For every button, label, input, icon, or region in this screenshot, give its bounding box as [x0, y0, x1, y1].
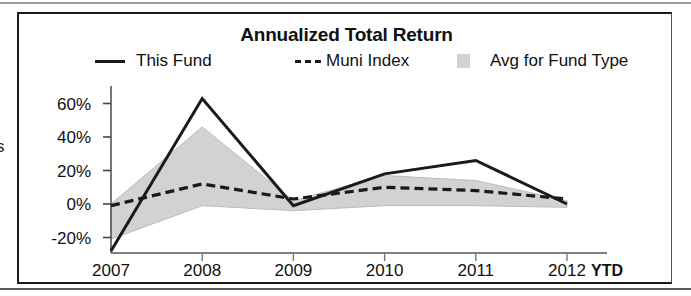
y-axis-caption-fragment: s: [0, 138, 10, 155]
x-axis-tick-label: 2012: [527, 262, 607, 279]
x-axis-tick-label: 2011: [436, 262, 516, 279]
chart-screenshot: s Annualized Total Return This Fund Muni…: [0, 0, 691, 296]
x-axis-tick-label: 2010: [345, 262, 425, 279]
x-axis-tick-label: 2008: [162, 262, 242, 279]
x-axis-tick-labels: YTD 200720082009201020112012: [19, 14, 674, 286]
chart-frame: Annualized Total Return This Fund Muni I…: [17, 12, 672, 284]
bottom-divider: [0, 288, 691, 290]
x-axis-tick-label: 2007: [71, 262, 151, 279]
x-axis-tick-label: 2009: [253, 262, 333, 279]
top-divider: [0, 2, 691, 4]
